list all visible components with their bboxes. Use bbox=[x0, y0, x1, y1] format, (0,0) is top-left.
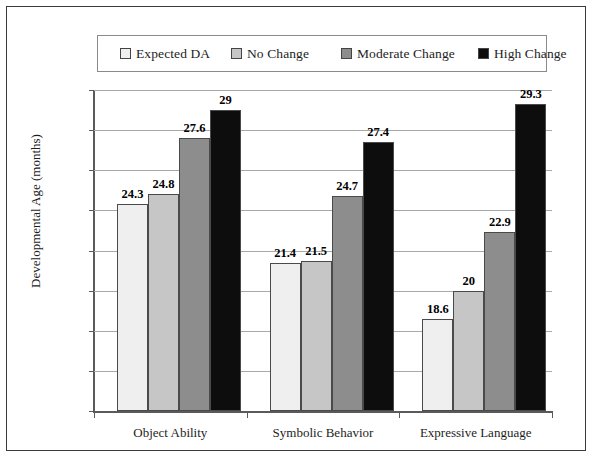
gridline bbox=[94, 170, 552, 171]
legend-swatch-icon bbox=[478, 48, 489, 59]
x-axis-line bbox=[93, 411, 552, 413]
y-tick-mark bbox=[89, 170, 94, 171]
legend-label: Moderate Change bbox=[357, 46, 455, 62]
y-axis-title: Developmental Age (months) bbox=[28, 96, 44, 326]
gridline bbox=[94, 90, 552, 91]
x-tick-mark bbox=[552, 411, 553, 418]
legend-swatch-icon bbox=[231, 48, 242, 59]
legend-swatch-icon bbox=[120, 48, 131, 59]
x-category-label: Object Ability bbox=[94, 425, 247, 441]
legend-item-high-change: High Change bbox=[478, 46, 567, 62]
x-tick-mark bbox=[94, 411, 95, 418]
bar-value-label: 29 bbox=[204, 93, 247, 108]
bar bbox=[422, 319, 453, 411]
bar bbox=[148, 194, 179, 411]
y-tick-mark bbox=[89, 291, 94, 292]
bar bbox=[332, 196, 363, 411]
bar bbox=[117, 204, 148, 411]
gridline bbox=[94, 130, 552, 131]
x-category-label: Expressive Language bbox=[399, 425, 552, 441]
y-tick-mark bbox=[89, 90, 94, 91]
figure: Expected DANo ChangeModerate ChangeHigh … bbox=[0, 0, 592, 457]
legend-label: High Change bbox=[494, 46, 567, 62]
bar bbox=[363, 142, 394, 411]
chart-legend: Expected DANo ChangeModerate ChangeHigh … bbox=[97, 35, 547, 72]
y-tick-mark bbox=[89, 331, 94, 332]
legend-label: Expected DA bbox=[136, 46, 210, 62]
legend-item-no-change: No Change bbox=[231, 46, 309, 62]
bar-value-label: 29.3 bbox=[509, 87, 552, 102]
y-tick-mark bbox=[89, 210, 94, 211]
bar bbox=[270, 263, 301, 411]
bar bbox=[484, 232, 515, 411]
bar bbox=[210, 110, 241, 411]
y-tick-mark bbox=[89, 251, 94, 252]
x-tick-mark bbox=[247, 411, 248, 418]
legend-item-expected-da: Expected DA bbox=[120, 46, 210, 62]
bar-value-label: 27.4 bbox=[357, 125, 400, 140]
figure-border: Expected DANo ChangeModerate ChangeHigh … bbox=[6, 6, 586, 451]
bar bbox=[301, 261, 332, 411]
bar bbox=[453, 291, 484, 411]
legend-item-moderate-change: Moderate Change bbox=[341, 46, 455, 62]
y-tick-mark bbox=[89, 371, 94, 372]
y-tick-mark bbox=[89, 130, 94, 131]
legend-label: No Change bbox=[247, 46, 309, 62]
x-category-label: Symbolic Behavior bbox=[247, 425, 400, 441]
plot-area: 14161820222426283024.324.827.629Object A… bbox=[94, 90, 552, 411]
bar bbox=[179, 138, 210, 411]
legend-swatch-icon bbox=[341, 48, 352, 59]
bar bbox=[515, 104, 546, 411]
x-tick-mark bbox=[399, 411, 400, 418]
